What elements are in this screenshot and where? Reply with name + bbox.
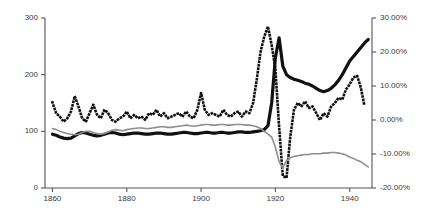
chart-plot-area [0,0,430,220]
series-real-index-gray [52,125,368,169]
chart-container: 0100200300 -20.00%-10.00%0.00%10.00%20.0… [0,0,430,220]
x-axis-tick-label: 1900 [181,195,221,203]
y-axis-left-tick-label: 200 [8,71,38,79]
x-axis-ticks [52,188,349,192]
y-axis-left-tick-label: 0 [8,184,38,192]
y-axis-right-tick-label: -10.00% [380,150,410,158]
data-series-layer [52,27,368,178]
series-growth-rate-dotted [52,27,364,178]
y-axis-left-ticks [41,18,45,188]
y-axis-left-tick-label: 100 [8,127,38,135]
x-axis-tick-label: 1860 [32,195,72,203]
y-axis-right-tick-label: 10.00% [380,82,407,90]
y-axis-right-ticks [372,18,376,188]
y-axis-right-tick-label: 0.00% [380,116,403,124]
y-axis-right-tick-label: -20.00% [380,184,410,192]
y-axis-right-tick-label: 30.00% [380,14,407,22]
y-axis-right-tick-label: 20.00% [380,48,407,56]
axis-lines [45,18,372,188]
x-axis-tick-label: 1940 [330,195,370,203]
series-index-thick-black [52,38,368,139]
y-axis-left-tick-label: 300 [8,14,38,22]
x-axis-tick-label: 1880 [107,195,147,203]
x-axis-tick-label: 1920 [255,195,295,203]
